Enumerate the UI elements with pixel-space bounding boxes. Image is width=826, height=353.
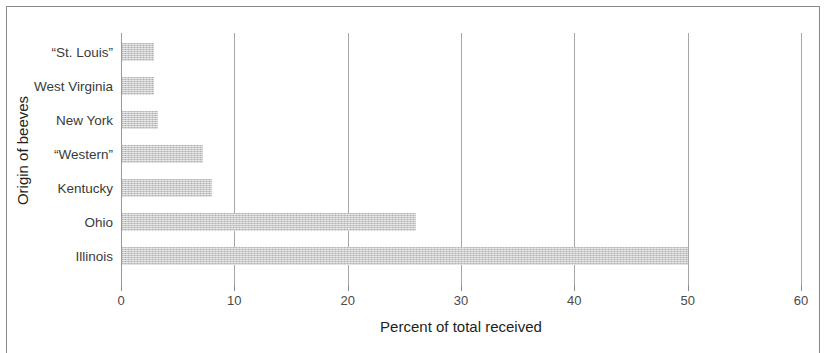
- x-axis-tick-10: [234, 285, 235, 291]
- y-axis-category-labels: “St. Louis”West VirginiaNew York“Western…: [0, 0, 113, 353]
- y-axis-category-label: “St. Louis”: [51, 45, 113, 60]
- x-axis-tick-0: [121, 285, 122, 291]
- bar: [122, 43, 154, 61]
- bar: [122, 145, 203, 163]
- bar-chart-figure: Origin of beeves “St. Louis”West Virgini…: [0, 0, 826, 353]
- y-axis-category-label: Illinois: [75, 249, 113, 264]
- y-axis-category-label: Kentucky: [57, 181, 113, 196]
- x-axis-tick-label: 0: [117, 293, 124, 308]
- gridline-50: [688, 33, 689, 285]
- x-axis-tick-label: 50: [680, 293, 694, 308]
- bar: [122, 247, 688, 265]
- x-axis-tick-label: 20: [340, 293, 354, 308]
- x-axis-title: Percent of total received: [121, 318, 801, 335]
- x-axis-tick-20: [348, 285, 349, 291]
- y-axis-category-label: West Virginia: [34, 79, 113, 94]
- x-axis-tick-label: 30: [454, 293, 468, 308]
- y-axis-category-label: New York: [56, 113, 113, 128]
- x-axis-tick-30: [461, 285, 462, 291]
- x-axis-tick-label: 60: [794, 293, 808, 308]
- figure-frame-right-border: [819, 6, 820, 353]
- bar: [122, 179, 212, 197]
- gridline-60: [801, 33, 802, 285]
- bar: [122, 111, 158, 129]
- y-axis-category-label: “Western”: [54, 147, 113, 162]
- x-axis-tick-50: [688, 285, 689, 291]
- bar: [122, 213, 416, 231]
- figure-frame-top-border: [6, 6, 820, 7]
- y-axis-category-label: Ohio: [84, 215, 113, 230]
- x-axis-tick-60: [801, 285, 802, 291]
- x-axis-tick-40: [574, 285, 575, 291]
- x-axis-tick-label: 40: [567, 293, 581, 308]
- plot-area: 0102030405060: [121, 33, 801, 285]
- x-axis-tick-label: 10: [227, 293, 241, 308]
- bar: [122, 77, 154, 95]
